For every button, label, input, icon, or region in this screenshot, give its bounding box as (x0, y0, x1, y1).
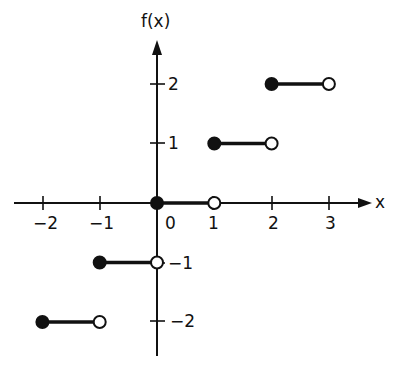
closed-endpoint-icon (266, 78, 278, 90)
x-tick-label: 3 (325, 213, 336, 233)
x-tick-label: −2 (33, 213, 58, 233)
open-endpoint-icon (208, 197, 220, 209)
y-tick-label: −1 (168, 253, 193, 273)
step-function-chart: f(x) x −2 −1 0 1 2 3 2 1 −1 −2 (0, 0, 394, 380)
step-segment (151, 197, 220, 209)
x-tick-label: 1 (208, 213, 219, 233)
closed-endpoint-icon (208, 138, 220, 150)
step-segment (266, 78, 335, 90)
y-axis-label: f(x) (141, 11, 170, 31)
x-axis-label: x (375, 192, 385, 212)
step-segment (94, 257, 163, 269)
open-endpoint-icon (94, 316, 106, 328)
open-endpoint-icon (323, 78, 335, 90)
open-endpoint-icon (266, 138, 278, 150)
y-tick-label: 1 (168, 133, 179, 153)
x-tick-label: −1 (89, 213, 114, 233)
step-segment (36, 316, 105, 328)
closed-endpoint-icon (36, 316, 48, 328)
y-axis-arrow-icon (152, 40, 162, 55)
x-axis-arrow-icon (358, 198, 372, 208)
open-endpoint-icon (151, 257, 163, 269)
closed-endpoint-icon (94, 257, 106, 269)
y-tick-label: −2 (170, 311, 195, 331)
step-segment (208, 138, 277, 150)
x-tick-label: 2 (268, 213, 279, 233)
origin-label: 0 (165, 213, 176, 233)
y-tick-label: 2 (168, 74, 179, 94)
closed-endpoint-icon (151, 197, 163, 209)
axes (14, 40, 372, 356)
